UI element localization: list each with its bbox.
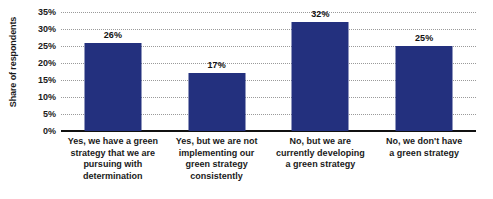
bar-group: 17% (165, 12, 269, 131)
category-label: No, but we arecurrently developinga gree… (269, 136, 373, 171)
category-label-line: No, but we are (269, 136, 373, 148)
category-label-line: No, we don't have (372, 136, 476, 148)
category-label-line: strategy that we are (61, 148, 165, 160)
category-label-line: consistently (165, 171, 269, 183)
category-label: Yes, but we are notimplementing ourgreen… (165, 136, 269, 182)
y-axis-title: Share of respondents (8, 0, 18, 127)
y-axis-tick-20: 20% (24, 58, 56, 68)
bar-chart: Share of respondents 0%5%10%15%20%25%30%… (0, 0, 493, 199)
y-axis-tick-0: 0% (24, 126, 56, 136)
bars-layer: 26%17%32%25% (61, 12, 476, 131)
category-label: No, we don't havea green strategy (372, 136, 476, 159)
bar-value-label: 25% (415, 33, 433, 43)
bar[interactable] (292, 22, 349, 131)
bar[interactable] (396, 46, 453, 131)
y-axis-tick-10: 10% (24, 92, 56, 102)
category-label: Yes, we have a greenstrategy that we are… (61, 136, 165, 182)
bar-value-label: 32% (311, 9, 329, 19)
category-label-line: a green strategy (269, 159, 373, 171)
category-label-line: a green strategy (372, 148, 476, 160)
y-axis-tick-15: 15% (24, 75, 56, 85)
bar-group: 32% (269, 12, 373, 131)
y-axis-tick-5: 5% (24, 109, 56, 119)
y-axis-tick-labels: 0%5%10%15%20%25%30%35% (24, 0, 56, 140)
category-label-line: green strategy (165, 159, 269, 171)
category-label-line: pursuing with (61, 159, 165, 171)
bar[interactable] (188, 73, 245, 131)
y-axis-tick-25: 25% (24, 41, 56, 51)
y-axis-tick-30: 30% (24, 24, 56, 34)
x-axis-category-labels: Yes, we have a greenstrategy that we are… (61, 136, 476, 196)
category-label-line: implementing our (165, 148, 269, 160)
bar-group: 25% (372, 12, 476, 131)
category-label-line: Yes, we have a green (61, 136, 165, 148)
y-axis-tick-35: 35% (24, 7, 56, 17)
category-label-line: determination (61, 171, 165, 183)
category-label-line: currently developing (269, 148, 373, 160)
bar-value-label: 26% (104, 30, 122, 40)
bar-value-label: 17% (208, 60, 226, 70)
category-label-line: Yes, but we are not (165, 136, 269, 148)
bar-group: 26% (61, 12, 165, 131)
bar[interactable] (84, 43, 141, 131)
